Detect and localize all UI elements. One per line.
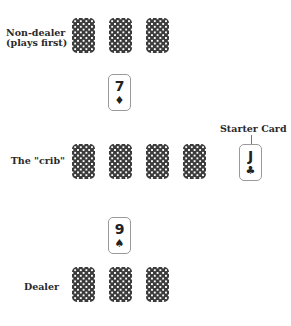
non-dealer-played-card: 7 ♦ xyxy=(108,74,131,111)
card-back xyxy=(146,144,169,179)
card-back xyxy=(72,144,95,179)
card-back xyxy=(183,144,206,179)
non-dealer-label-line2: (plays first) xyxy=(6,38,64,48)
card-rank: J xyxy=(240,149,261,163)
dealer-played-card: 9 ♠ xyxy=(108,217,131,254)
card-back xyxy=(146,18,169,53)
starter-connector-line xyxy=(251,135,252,144)
diamond-icon: ♦ xyxy=(109,95,130,106)
card-back xyxy=(146,267,169,302)
card-back xyxy=(72,18,95,53)
dealer-label: Dealer xyxy=(4,282,59,292)
spade-icon: ♠ xyxy=(109,238,130,249)
card-back xyxy=(109,144,132,179)
starter-card: J ♣ xyxy=(239,144,262,181)
card-rank: 7 xyxy=(109,79,130,93)
card-back xyxy=(109,267,132,302)
starter-card-label: Starter Card xyxy=(220,124,283,134)
club-icon: ♣ xyxy=(240,165,261,176)
card-back xyxy=(72,267,95,302)
non-dealer-label: Non-dealer (plays first) xyxy=(6,28,64,48)
crib-label: The "crib" xyxy=(4,156,65,166)
card-back xyxy=(109,18,132,53)
card-rank: 9 xyxy=(109,222,130,236)
